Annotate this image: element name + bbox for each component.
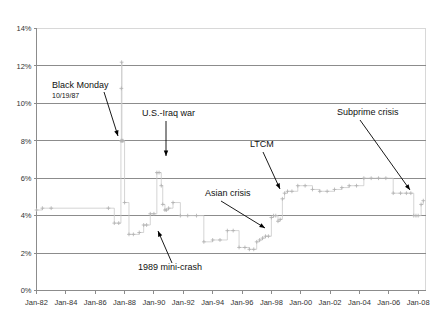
x-tick-label-6: Jan-94 bbox=[201, 298, 224, 307]
y-tick-label-2: 4% bbox=[21, 211, 32, 220]
y-tick-label-1: 2% bbox=[21, 249, 32, 258]
x-tick-label-4: Jan-90 bbox=[142, 298, 165, 307]
x-tick-label-9: Jan-00 bbox=[289, 298, 312, 307]
annotation-label-1989-mini-crash: 1989 mini-crash bbox=[138, 262, 202, 272]
annotation-label-ltcm: LTCM bbox=[250, 139, 274, 149]
chart-background bbox=[0, 0, 445, 322]
x-tick-label-1: Jan-84 bbox=[54, 298, 77, 307]
annotation-label-subprime-crisis: Subprime crisis bbox=[337, 107, 399, 117]
x-tick-label-13: Jan-08 bbox=[407, 298, 430, 307]
y-tick-label-3: 6% bbox=[21, 174, 32, 183]
y-tick-label-0: 0% bbox=[21, 286, 32, 295]
x-tick-label-12: Jan-06 bbox=[377, 298, 400, 307]
x-tick-label-3: Jan-88 bbox=[113, 298, 136, 307]
annotation-label-us-iraq-war: U.S.-Iraq war bbox=[142, 108, 195, 118]
x-tick-label-10: Jan-02 bbox=[319, 298, 342, 307]
annotation-label-asian-crisis: Asian crisis bbox=[205, 188, 251, 198]
x-tick-label-7: Jan-96 bbox=[231, 298, 254, 307]
annotation-sublabel-black-monday: 10/19/87 bbox=[52, 92, 79, 99]
y-tick-label-5: 10% bbox=[16, 99, 31, 108]
x-tick-label-0: Jan-82 bbox=[25, 298, 48, 307]
volatility-line-chart: 0%2%4%6%8%10%12%14% Jan-82Jan-84Jan-86Ja… bbox=[0, 0, 445, 322]
y-tick-label-4: 8% bbox=[21, 137, 32, 146]
x-tick-label-5: Jan-92 bbox=[172, 298, 195, 307]
y-tick-label-7: 14% bbox=[16, 24, 31, 33]
chart-container: 0%2%4%6%8%10%12%14% Jan-82Jan-84Jan-86Ja… bbox=[0, 0, 445, 322]
x-tick-label-8: Jan-98 bbox=[260, 298, 283, 307]
x-tick-label-2: Jan-86 bbox=[84, 298, 107, 307]
y-tick-label-6: 12% bbox=[16, 62, 31, 71]
annotation-label-black-monday: Black Monday bbox=[52, 80, 109, 90]
x-tick-label-11: Jan-04 bbox=[348, 298, 371, 307]
